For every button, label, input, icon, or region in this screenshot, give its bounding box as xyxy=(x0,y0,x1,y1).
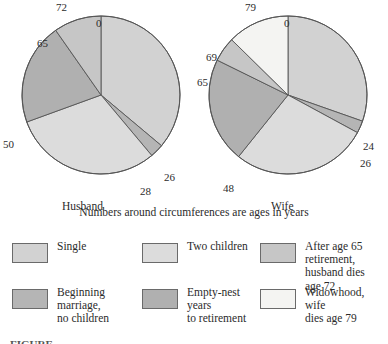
legend-label-two-children: Two children xyxy=(187,240,248,253)
figure-note: Numbers around circumferences are ages i… xyxy=(0,206,388,218)
wife-label-65: 65 xyxy=(197,77,208,88)
legend-row-2: Beginningmarriage,no children Empty-nest… xyxy=(12,286,382,332)
legend-item-two-children[interactable]: Two children xyxy=(142,240,260,263)
wife-label-79: 79 xyxy=(245,2,256,13)
figure-number-caption: FIGURE xyxy=(10,338,53,344)
legend-row-1: Single Two children After age 65retireme… xyxy=(12,240,382,286)
legend-label-beginning-marriage: Beginningmarriage,no children xyxy=(57,286,109,326)
husband-label-26: 26 xyxy=(164,172,175,183)
husband-pie-block xyxy=(18,0,184,196)
legend-label-widowhood: Widowhood, wifedies age 79 xyxy=(305,286,382,326)
legend: Single Two children After age 65retireme… xyxy=(12,240,382,332)
husband-label-28: 28 xyxy=(140,186,151,197)
wife-label-24: 24 xyxy=(363,141,374,152)
wife-label-0: 0 xyxy=(284,18,290,29)
legend-swatch-single xyxy=(12,243,48,263)
husband-label-50: 50 xyxy=(3,139,14,150)
legend-swatch-widowhood xyxy=(260,289,296,309)
legend-item-widowhood[interactable]: Widowhood, wifedies age 79 xyxy=(260,286,382,326)
legend-label-single: Single xyxy=(57,240,86,253)
husband-label-72: 72 xyxy=(56,2,67,13)
husband-pie-chart xyxy=(18,0,184,196)
legend-swatch-two-children xyxy=(142,243,178,263)
wife-pie-block xyxy=(205,0,371,196)
legend-item-beginning-marriage[interactable]: Beginningmarriage,no children xyxy=(12,286,142,326)
legend-swatch-beginning-marriage xyxy=(12,289,48,309)
figure-root: 72 0 26 28 50 65 Husband 79 0 24 26 48 6… xyxy=(0,0,388,344)
wife-label-26: 26 xyxy=(360,158,371,169)
legend-swatch-empty-nest xyxy=(142,289,178,309)
legend-label-empty-nest: Empty-nest yearsto retirement xyxy=(187,286,260,326)
wife-label-69: 69 xyxy=(206,52,217,63)
wife-pie-chart xyxy=(205,0,371,196)
legend-item-retirement[interactable]: After age 65retirement,husband dies age … xyxy=(260,240,382,293)
legend-item-single[interactable]: Single xyxy=(12,240,142,263)
husband-label-65: 65 xyxy=(37,38,48,49)
wife-label-48: 48 xyxy=(223,183,234,194)
legend-label-retirement: After age 65retirement,husband dies age … xyxy=(305,240,382,293)
husband-label-0: 0 xyxy=(96,18,102,29)
charts-area: 72 0 26 28 50 65 Husband 79 0 24 26 48 6… xyxy=(0,0,388,196)
legend-swatch-retirement xyxy=(260,243,296,263)
legend-item-empty-nest[interactable]: Empty-nest yearsto retirement xyxy=(142,286,260,326)
